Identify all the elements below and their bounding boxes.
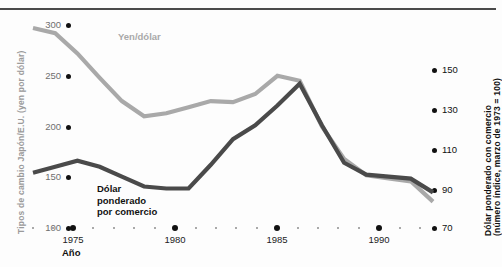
series-label-dolar: Dólar ponderado por comercio — [97, 183, 157, 218]
series-label-yen: Yen/dólar — [118, 31, 161, 42]
x-axis-label: Año — [62, 247, 80, 258]
